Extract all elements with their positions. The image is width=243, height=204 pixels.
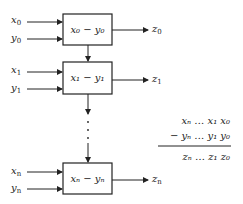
ellipsis-dot <box>87 137 89 139</box>
ellipsis-dot <box>87 129 89 131</box>
label-y1: y1 <box>11 83 21 96</box>
equation-row-subtrahend: − yₙ … y₁ y₀ <box>158 130 230 142</box>
label-y0: y0 <box>11 33 21 46</box>
ellipsis-dot <box>87 121 89 123</box>
label-yn: yn <box>11 183 21 196</box>
box-label-n: xₙ − yₙ <box>63 174 112 184</box>
box-label-1: x₁ − y₁ <box>63 73 112 83</box>
block-diagram-canvas <box>0 0 243 204</box>
label-x1: x1 <box>11 65 21 78</box>
box-label-0: x₀ − y₀ <box>63 25 112 35</box>
label-z1: z1 <box>152 74 162 87</box>
equation-row-difference: zₙ … z₁ z₀ <box>160 151 230 163</box>
label-z0: z0 <box>152 24 162 37</box>
label-x0: x0 <box>11 15 21 28</box>
label-xn: xn <box>11 166 21 179</box>
label-zn: zn <box>152 174 162 187</box>
equation-row-minuend: xₙ … x₁ x₀ <box>160 115 230 127</box>
